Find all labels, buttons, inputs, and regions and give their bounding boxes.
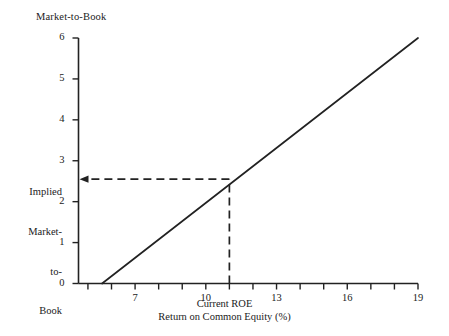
y-tick-label: 3	[49, 155, 65, 166]
x-axis-title-line-1: Current ROE	[0, 297, 449, 311]
x-axis-title-line-2: Return on Common Equity (%)	[0, 310, 449, 324]
guide-arrowhead-icon	[80, 176, 89, 183]
plot-canvas	[0, 0, 449, 336]
data-line	[102, 38, 418, 284]
y-tick-label: 2	[49, 196, 65, 207]
chart-figure: Market-to-Book Implied Market- to- Book …	[0, 0, 449, 336]
y-tick-label: 6	[49, 32, 65, 43]
annotation-guides-group	[80, 176, 230, 284]
data-series-group	[102, 38, 418, 284]
y-tick-label: 1	[49, 237, 65, 248]
axes-group	[73, 38, 419, 290]
y-tick-label: 0	[49, 278, 65, 289]
y-tick-label: 5	[49, 73, 65, 84]
y-tick-label: 4	[49, 114, 65, 125]
